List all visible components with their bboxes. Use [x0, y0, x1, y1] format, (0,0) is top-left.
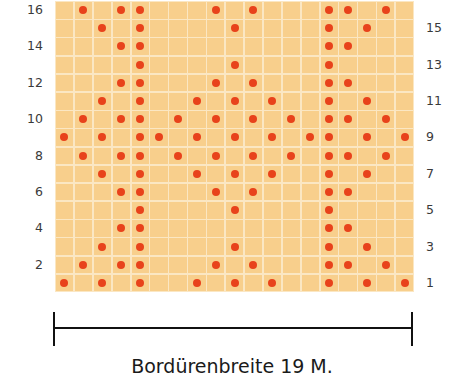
chart-cell: [169, 75, 186, 92]
chart-cell: [358, 111, 375, 128]
pattern-dot: [136, 61, 144, 69]
pattern-dot: [325, 243, 333, 251]
pattern-dot: [401, 133, 409, 141]
chart-cell: [396, 220, 413, 237]
chart-cell: [94, 75, 111, 92]
chart-cell: [94, 202, 111, 219]
chart-cell: [283, 238, 300, 255]
chart-cell: [150, 75, 167, 92]
chart-cell: [377, 238, 394, 255]
chart-cell: [94, 111, 111, 128]
pattern-dot: [174, 115, 182, 123]
chart-cell: [113, 202, 130, 219]
chart-cell: [75, 93, 92, 110]
chart-cell: [302, 166, 319, 183]
pattern-dot: [193, 170, 201, 178]
chart-cell: [150, 93, 167, 110]
chart-cell: [150, 238, 167, 255]
chart-cell: [207, 166, 224, 183]
chart-cell: [283, 2, 300, 19]
chart-cell: [377, 75, 394, 92]
chart-cell: [377, 220, 394, 237]
chart-cell: [188, 57, 205, 74]
chart-cell: [264, 202, 281, 219]
chart-cell: [396, 148, 413, 165]
chart-cell: [188, 220, 205, 237]
pattern-dot: [344, 6, 352, 14]
chart-cell: [302, 257, 319, 274]
chart-cell: [283, 38, 300, 55]
chart-cell: [264, 111, 281, 128]
chart-cell: [207, 202, 224, 219]
chart-cell: [302, 20, 319, 37]
chart-cell: [56, 202, 73, 219]
pattern-dot: [382, 261, 390, 269]
chart-cell: [396, 184, 413, 201]
pattern-dot: [344, 261, 352, 269]
pattern-dot: [117, 152, 125, 160]
chart-cell: [264, 184, 281, 201]
pattern-dot: [325, 279, 333, 287]
chart-cell: [283, 257, 300, 274]
chart-cell: [56, 184, 73, 201]
chart-cell: [113, 57, 130, 74]
chart-cell: [94, 257, 111, 274]
chart-cell: [150, 20, 167, 37]
chart-cell: [226, 75, 243, 92]
row-label-right: 11: [426, 94, 442, 108]
chart-cell: [264, 238, 281, 255]
chart-cell: [396, 2, 413, 19]
row-label-left: 12: [27, 76, 43, 90]
chart-cell: [358, 257, 375, 274]
pattern-dot: [382, 152, 390, 160]
chart-cell: [169, 129, 186, 146]
chart-cell: [75, 38, 92, 55]
chart-cell: [339, 166, 356, 183]
pattern-dot: [231, 61, 239, 69]
chart-cell: [264, 2, 281, 19]
chart-cell: [302, 238, 319, 255]
chart-cell: [75, 275, 92, 292]
chart-cell: [396, 93, 413, 110]
chart-cell: [264, 75, 281, 92]
chart-cell: [283, 275, 300, 292]
pattern-dot: [79, 152, 87, 160]
chart-cell: [283, 57, 300, 74]
pattern-dot: [363, 24, 371, 32]
chart-cell: [339, 238, 356, 255]
chart-cell: [150, 148, 167, 165]
chart-cell: [358, 57, 375, 74]
chart-cell: [150, 275, 167, 292]
chart-cell: [94, 148, 111, 165]
pattern-dot: [212, 152, 220, 160]
chart-cell: [56, 20, 73, 37]
chart-cell: [56, 38, 73, 55]
pattern-dot: [136, 152, 144, 160]
pattern-dot: [325, 188, 333, 196]
chart-cell: [302, 148, 319, 165]
chart-cell: [94, 38, 111, 55]
width-bracket-left-tick: [53, 312, 55, 346]
pattern-dot: [212, 188, 220, 196]
chart-cell: [150, 202, 167, 219]
pattern-dot: [401, 279, 409, 287]
pattern-dot: [363, 243, 371, 251]
chart-cell: [188, 111, 205, 128]
chart-cell: [188, 38, 205, 55]
pattern-dot: [363, 170, 371, 178]
chart-cell: [169, 184, 186, 201]
pattern-dot: [344, 152, 352, 160]
chart-cell: [245, 38, 262, 55]
pattern-dot: [212, 261, 220, 269]
chart-cell: [302, 184, 319, 201]
chart-cell: [226, 184, 243, 201]
chart-cell: [377, 38, 394, 55]
row-label-left: 2: [35, 258, 43, 272]
chart-cell: [377, 275, 394, 292]
chart-cell: [56, 166, 73, 183]
pattern-dot: [193, 279, 201, 287]
chart-cell: [188, 20, 205, 37]
chart-cell: [358, 2, 375, 19]
pattern-dot: [136, 261, 144, 269]
chart-cell: [245, 57, 262, 74]
